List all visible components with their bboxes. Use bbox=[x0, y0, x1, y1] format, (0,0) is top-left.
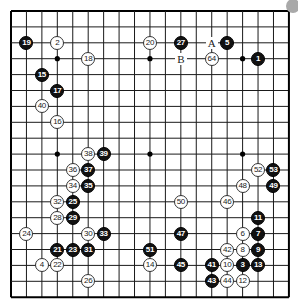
white-stone-50[interactable]: 50 bbox=[174, 195, 188, 209]
white-stone-48[interactable]: 48 bbox=[236, 179, 250, 193]
white-stone-30[interactable]: 30 bbox=[81, 227, 95, 241]
white-stone-42[interactable]: 42 bbox=[220, 243, 234, 257]
black-stone-43[interactable]: 43 bbox=[205, 274, 219, 288]
white-stone-24[interactable]: 24 bbox=[19, 227, 33, 241]
white-stone-6[interactable]: 6 bbox=[236, 227, 250, 241]
white-stone-28[interactable]: 28 bbox=[50, 211, 64, 225]
black-stone-3[interactable]: 3 bbox=[236, 258, 250, 272]
point-label-b: B bbox=[175, 53, 187, 65]
black-stone-1[interactable]: 1 bbox=[251, 52, 265, 66]
star-point bbox=[55, 56, 60, 61]
white-stone-52[interactable]: 52 bbox=[251, 163, 265, 177]
black-stone-15[interactable]: 15 bbox=[35, 68, 49, 82]
point-label-a: A bbox=[206, 37, 218, 49]
white-stone-34[interactable]: 34 bbox=[66, 179, 80, 193]
white-stone-8[interactable]: 8 bbox=[236, 243, 250, 257]
black-stone-21[interactable]: 21 bbox=[50, 243, 64, 257]
black-stone-9[interactable]: 9 bbox=[251, 243, 265, 257]
black-stone-47[interactable]: 47 bbox=[174, 227, 188, 241]
black-stone-27[interactable]: 27 bbox=[174, 36, 188, 50]
black-stone-17[interactable]: 17 bbox=[50, 84, 64, 98]
white-stone-64[interactable]: 64 bbox=[205, 52, 219, 66]
black-stone-39[interactable]: 39 bbox=[97, 147, 111, 161]
black-stone-7[interactable]: 7 bbox=[251, 227, 265, 241]
black-stone-23[interactable]: 23 bbox=[66, 243, 80, 257]
black-stone-33[interactable]: 33 bbox=[97, 227, 111, 241]
black-stone-35[interactable]: 35 bbox=[81, 179, 95, 193]
black-stone-25[interactable]: 25 bbox=[66, 195, 80, 209]
black-stone-29[interactable]: 29 bbox=[66, 211, 80, 225]
star-point bbox=[55, 152, 60, 157]
white-stone-18[interactable]: 18 bbox=[81, 52, 95, 66]
black-stone-5[interactable]: 5 bbox=[220, 36, 234, 50]
star-point bbox=[240, 56, 245, 61]
black-stone-11[interactable]: 11 bbox=[251, 211, 265, 225]
corner-circle-button[interactable] bbox=[286, 0, 298, 13]
white-stone-46[interactable]: 46 bbox=[220, 195, 234, 209]
star-point bbox=[240, 152, 245, 157]
star-point bbox=[147, 152, 152, 157]
black-stone-51[interactable]: 51 bbox=[143, 243, 157, 257]
white-stone-12[interactable]: 12 bbox=[236, 274, 250, 288]
white-stone-20[interactable]: 20 bbox=[143, 36, 157, 50]
star-point bbox=[147, 56, 152, 61]
black-stone-31[interactable]: 31 bbox=[81, 243, 95, 257]
white-stone-36[interactable]: 36 bbox=[66, 163, 80, 177]
